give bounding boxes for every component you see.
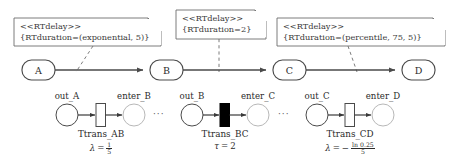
note-constant-tag: {RTduration=2} — [182, 24, 262, 35]
note-percentile-stereotype: <<RTdelay>> — [283, 21, 441, 32]
rate-value-bc: 2 — [230, 141, 235, 151]
diagram-canvas: <<RTdelay>> {RTduration=(exponential, 5)… — [0, 0, 453, 162]
rate-equals-cd: = — [333, 143, 340, 153]
note-percentile: <<RTdelay>> {RTduration=(percentile, 75,… — [279, 19, 445, 45]
petri-separator-1: ··· — [153, 109, 165, 119]
rate-equals-ab: = — [97, 143, 104, 153]
rate-fraction-cd: ln 0.25 5 — [351, 142, 375, 156]
transition-ttrans-cd-label: Ttrans_CD — [310, 129, 390, 139]
rate-equals-bc: = — [221, 141, 228, 151]
rate-symbol-lambda-ab: λ — [90, 143, 95, 153]
note-connector-1 — [76, 46, 93, 72]
rate-fraction-ab: 1 5 — [106, 142, 112, 156]
note-constant: <<RTdelay>> {RTduration=2} — [178, 11, 266, 37]
rate-symbol-lambda-cd: λ — [325, 143, 330, 153]
place-out-b — [181, 104, 203, 126]
state-d-label: D — [402, 65, 435, 76]
transition-ttrans-bc-label: Ttrans_BC — [185, 129, 265, 139]
rate-denominator-cd: 5 — [360, 149, 366, 156]
note-exponential: <<RTdelay>> {RTduration=(exponential, 5)… — [16, 19, 161, 45]
place-enter-c-label: enter_C — [230, 91, 286, 101]
rate-ttrans-cd: λ = − ln 0.25 5 — [310, 141, 390, 155]
state-b-label: B — [150, 65, 183, 76]
state-c-label: C — [273, 65, 306, 76]
place-out-c — [306, 104, 328, 126]
rate-ttrans-ab: λ = 1 5 — [61, 141, 141, 155]
rate-ttrans-bc: τ = 2 — [185, 141, 265, 151]
place-enter-d-label: enter_D — [355, 91, 411, 101]
transition-ttrans-ab — [96, 104, 106, 127]
place-enter-c — [247, 104, 269, 126]
place-out-b-label: out_B — [165, 91, 219, 101]
note-exponential-stereotype: <<RTdelay>> — [20, 21, 157, 32]
note-connector-3 — [348, 46, 357, 72]
rate-denominator-ab: 5 — [106, 149, 112, 156]
place-out-c-label: out_C — [290, 91, 344, 101]
note-constant-stereotype: <<RTdelay>> — [182, 13, 262, 24]
transition-ttrans-bc — [220, 104, 230, 127]
petri-separator-2: ··· — [278, 109, 290, 119]
transition-ttrans-cd — [345, 104, 355, 127]
place-enter-d — [372, 104, 394, 126]
state-a-label: A — [22, 65, 55, 76]
place-out-a-label: out_A — [40, 91, 94, 101]
note-exponential-tag: {RTduration=(exponential, 5)} — [20, 32, 157, 43]
rate-sign-cd: − — [342, 143, 349, 153]
place-enter-b-label: enter_B — [106, 91, 162, 101]
place-enter-b — [123, 104, 145, 126]
place-out-a — [56, 104, 78, 126]
transition-ttrans-ab-label: Ttrans_AB — [61, 129, 141, 139]
rate-symbol-tau-bc: τ — [214, 141, 219, 151]
note-percentile-tag: {RTduration=(percentile, 75, 5)} — [283, 32, 441, 43]
